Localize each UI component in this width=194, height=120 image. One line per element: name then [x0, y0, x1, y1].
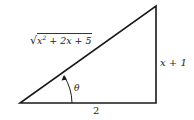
- opposite-side-label: x + 1: [160, 58, 187, 68]
- radicand: x2 + 2x + 5: [37, 33, 92, 46]
- adjacent-side-label: 2: [93, 106, 99, 116]
- triangle: [20, 6, 156, 103]
- radical-sign: √: [30, 34, 37, 47]
- hypotenuse-label: √x2 + 2x + 5: [30, 33, 92, 46]
- angle-label: θ: [74, 84, 79, 93]
- angle-arc: [64, 76, 72, 103]
